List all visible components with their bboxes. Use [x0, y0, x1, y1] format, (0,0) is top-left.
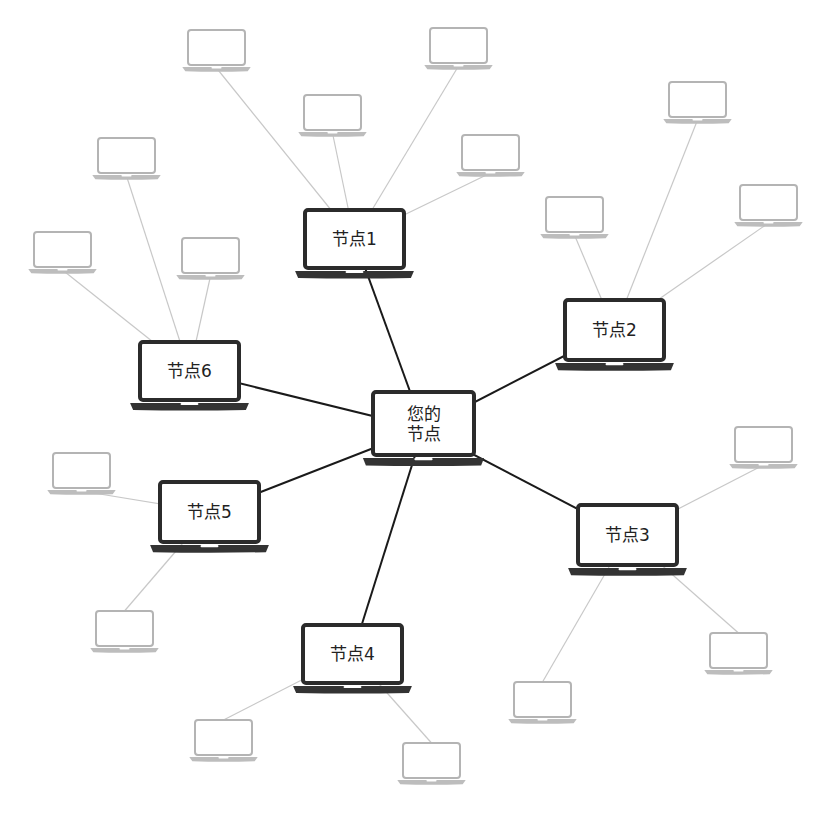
laptop-notch — [485, 172, 495, 174]
laptop-notch — [692, 119, 702, 121]
node-5-label: 节点5 — [160, 482, 259, 542]
peer-laptop-icon — [90, 611, 158, 653]
laptop-notch — [619, 568, 637, 570]
peer-laptop-icon — [28, 232, 96, 274]
laptop-screen — [546, 197, 603, 232]
center-label-line2: 节点 — [407, 424, 441, 444]
laptop-notch — [119, 648, 129, 650]
peer-laptop-icon — [663, 82, 731, 124]
laptop-screen — [188, 30, 245, 65]
laptop-notch — [426, 780, 436, 782]
laptop-notch — [218, 757, 228, 759]
center-label-line1: 您的 — [407, 404, 441, 424]
peer-laptop-icon — [47, 453, 115, 495]
laptop-notch — [537, 719, 547, 721]
laptop-notch — [414, 458, 432, 460]
laptop-screen — [710, 633, 767, 668]
peer-laptop-icon — [734, 185, 802, 227]
peer-laptop-icon — [176, 238, 244, 280]
laptop-screen — [96, 611, 153, 646]
node-4-label: 节点4 — [303, 625, 402, 683]
laptop-notch — [201, 545, 219, 547]
peer-laptop-icon — [424, 28, 492, 70]
laptop-notch — [344, 686, 362, 688]
laptop-notch — [453, 65, 463, 67]
laptop-screen — [740, 185, 797, 220]
laptop-notch — [733, 670, 743, 672]
laptop-notch — [346, 271, 364, 273]
peer-laptop-icon — [508, 682, 576, 724]
laptop-notch — [211, 67, 221, 69]
laptop-screen — [514, 682, 571, 717]
peer-laptop-icon — [182, 30, 250, 72]
laptop-notch — [76, 490, 86, 492]
laptop-notch — [327, 132, 337, 134]
peer-laptop-icon — [92, 138, 160, 180]
peer-laptop-icon — [540, 197, 608, 239]
node-2-label: 节点2 — [565, 300, 664, 360]
peer-laptop-icon — [298, 95, 366, 137]
laptop-screen — [462, 135, 519, 170]
laptop-notch — [57, 269, 67, 271]
laptop-screen — [735, 427, 792, 462]
laptop-notch — [121, 175, 131, 177]
laptop-notch — [606, 363, 624, 365]
laptop-screen — [403, 743, 460, 778]
center-node-label: 您的 节点 — [373, 392, 474, 455]
peer-laptop-icon — [397, 743, 465, 785]
laptop-screen — [182, 238, 239, 273]
laptop-notch — [758, 464, 768, 466]
laptop-screen — [195, 720, 252, 755]
laptop-notch — [763, 222, 773, 224]
laptop-screen — [53, 453, 110, 488]
node-6-label: 节点6 — [140, 342, 239, 400]
laptop-screen — [669, 82, 726, 117]
laptop-notch — [569, 234, 579, 236]
peer-laptop-icon — [704, 633, 772, 675]
peer-laptop-icon — [729, 427, 797, 469]
network-diagram: 您的 节点 节点1 节点2 节点3 节点4 节点5 节点6 — [0, 0, 815, 816]
laptop-notch — [205, 275, 215, 277]
laptop-notch — [181, 403, 199, 405]
node-3-label: 节点3 — [578, 505, 677, 565]
laptop-screen — [34, 232, 91, 267]
peer-laptop-icon — [189, 720, 257, 762]
laptop-screen — [304, 95, 361, 130]
peer-laptop-icon — [456, 135, 524, 177]
laptop-screen — [430, 28, 487, 63]
laptop-screen — [98, 138, 155, 173]
node-1-label: 节点1 — [305, 210, 404, 268]
